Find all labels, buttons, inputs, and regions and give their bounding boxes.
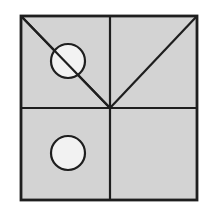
circle-lower-left — [51, 136, 85, 170]
circle-upper-left — [51, 44, 85, 78]
diagram-canvas — [0, 0, 211, 215]
